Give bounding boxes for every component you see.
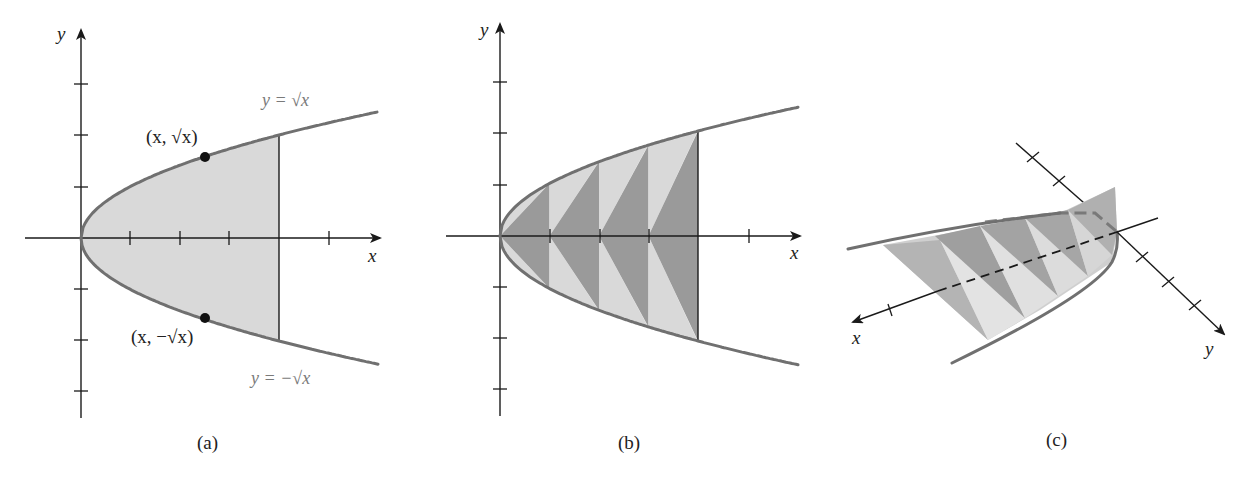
x-tick xyxy=(888,304,892,316)
upper-curve-label: y = √x xyxy=(260,90,309,110)
caption-c: (c) xyxy=(1046,429,1067,451)
x-axis-positive xyxy=(1117,218,1158,232)
panel-b: y x (b) xyxy=(446,19,800,454)
x-axis xyxy=(853,291,938,322)
y-ticks xyxy=(1136,252,1201,310)
point-lower-label: (x, −√x) xyxy=(131,326,193,348)
point-upper xyxy=(200,152,210,162)
x-axis-label: x xyxy=(851,327,861,348)
point-upper-label: (x, √x) xyxy=(146,126,198,148)
point-lower xyxy=(200,313,210,323)
panel-c: x y (c) xyxy=(848,143,1224,451)
strip-triangle xyxy=(500,236,550,288)
caption-a: (a) xyxy=(197,432,218,454)
triangular-solid xyxy=(883,187,1117,340)
lower-curve-label: y = −√x xyxy=(249,368,310,388)
y-axis xyxy=(1117,232,1224,334)
y-axis-label: y xyxy=(1203,338,1214,359)
figure-canvas: y x (x, √x) (x, −√x) y = √x y = −√x (a) … xyxy=(0,0,1245,477)
x-axis-label: x xyxy=(367,245,377,266)
x-axis-label: x xyxy=(789,242,799,263)
panel-a: y x (x, √x) (x, −√x) y = √x y = −√x (a) xyxy=(25,23,380,454)
caption-b: (b) xyxy=(618,432,640,454)
strip-triangle xyxy=(500,184,550,236)
y-axis-label: y xyxy=(478,19,489,40)
y-axis-label: y xyxy=(55,23,66,44)
